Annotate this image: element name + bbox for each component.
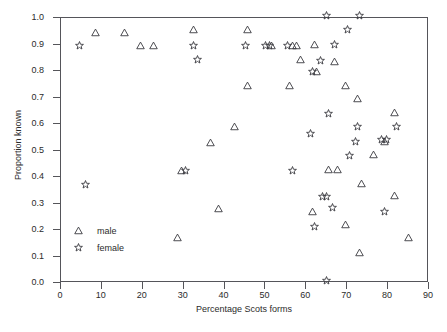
y-tick-mark bbox=[53, 44, 60, 45]
data-point-male bbox=[333, 165, 342, 174]
y-tick-mark bbox=[53, 97, 60, 98]
data-point-male bbox=[149, 41, 158, 50]
data-point-male bbox=[357, 179, 366, 188]
data-point-female bbox=[382, 135, 391, 144]
data-point-female bbox=[316, 56, 325, 65]
y-tick-mark bbox=[53, 17, 60, 18]
y-tick-mark bbox=[53, 256, 60, 257]
y-tick-label: 0.0 bbox=[0, 278, 44, 287]
data-point-female bbox=[193, 55, 202, 64]
x-tick-mark bbox=[60, 282, 61, 289]
x-tick-mark bbox=[264, 282, 265, 289]
x-tick-label: 20 bbox=[127, 291, 157, 300]
x-tick-label: 50 bbox=[249, 291, 279, 300]
data-point-male bbox=[404, 233, 413, 242]
data-point-male bbox=[230, 122, 239, 131]
data-point-female bbox=[324, 109, 333, 118]
data-point-male bbox=[136, 41, 145, 50]
data-point-female bbox=[330, 40, 339, 49]
legend-item-label: female bbox=[97, 243, 124, 253]
data-point-female bbox=[345, 151, 354, 160]
data-point-female bbox=[355, 11, 364, 20]
data-point-female bbox=[181, 166, 190, 175]
x-tick-mark bbox=[224, 282, 225, 289]
y-tick-label: 0.9 bbox=[0, 40, 44, 49]
x-tick-label: 10 bbox=[86, 291, 116, 300]
y-tick-mark bbox=[53, 150, 60, 151]
y-tick-mark bbox=[53, 176, 60, 177]
data-point-female bbox=[75, 41, 84, 50]
data-point-male bbox=[390, 108, 399, 117]
y-tick-mark bbox=[53, 203, 60, 204]
data-point-female bbox=[283, 41, 292, 50]
x-tick-mark bbox=[305, 282, 306, 289]
legend: malefemale bbox=[72, 222, 124, 256]
x-tick-mark bbox=[346, 282, 347, 289]
data-point-female bbox=[308, 67, 317, 76]
x-tick-label: 0 bbox=[45, 291, 75, 300]
x-tick-mark bbox=[142, 282, 143, 289]
data-point-female bbox=[343, 25, 352, 34]
y-tick-mark bbox=[53, 70, 60, 71]
x-tick-label: 60 bbox=[290, 291, 320, 300]
y-tick-label: 1.0 bbox=[0, 13, 44, 22]
data-point-female bbox=[189, 41, 198, 50]
data-point-male bbox=[310, 40, 319, 49]
data-point-male bbox=[330, 57, 339, 66]
legend-item-male: male bbox=[72, 222, 124, 239]
data-point-male bbox=[189, 25, 198, 34]
data-point-male bbox=[355, 248, 364, 257]
data-point-female bbox=[322, 11, 331, 20]
data-point-male bbox=[120, 28, 129, 37]
data-point-female bbox=[288, 166, 297, 175]
x-tick-label: 30 bbox=[168, 291, 198, 300]
data-point-female bbox=[310, 222, 319, 231]
data-point-male bbox=[292, 41, 301, 50]
x-tick-label: 40 bbox=[209, 291, 239, 300]
legend-item-label: male bbox=[97, 226, 117, 236]
x-tick-label: 70 bbox=[331, 291, 361, 300]
y-tick-label: 0.8 bbox=[0, 66, 44, 75]
data-point-male bbox=[91, 28, 100, 37]
data-point-female bbox=[306, 129, 315, 138]
data-point-male bbox=[341, 220, 350, 229]
y-tick-mark bbox=[53, 229, 60, 230]
y-tick-mark bbox=[53, 123, 60, 124]
x-tick-mark bbox=[428, 282, 429, 289]
data-point-male bbox=[296, 55, 305, 64]
y-axis-label: Proportion known bbox=[13, 90, 23, 200]
x-tick-label: 90 bbox=[413, 291, 443, 300]
data-point-male bbox=[285, 81, 294, 90]
x-axis-label: Percentage Scots forms bbox=[60, 304, 428, 314]
data-point-male bbox=[243, 81, 252, 90]
x-tick-mark bbox=[101, 282, 102, 289]
data-point-female bbox=[322, 192, 331, 201]
triangle-up-icon bbox=[72, 225, 86, 236]
data-point-female bbox=[351, 137, 360, 146]
data-point-female bbox=[81, 180, 90, 189]
data-point-female bbox=[322, 276, 331, 285]
data-point-female bbox=[265, 41, 274, 50]
data-point-male bbox=[308, 207, 317, 216]
data-point-female bbox=[241, 41, 250, 50]
data-point-male bbox=[341, 81, 350, 90]
data-point-male bbox=[369, 150, 378, 159]
x-tick-mark bbox=[387, 282, 388, 289]
data-point-male bbox=[353, 94, 362, 103]
y-tick-label: 0.1 bbox=[0, 252, 44, 261]
data-point-male bbox=[390, 191, 399, 200]
legend-item-female: female bbox=[72, 239, 124, 256]
data-point-male bbox=[173, 233, 182, 242]
data-point-male bbox=[214, 204, 223, 213]
star-icon bbox=[72, 242, 86, 253]
y-tick-label: 0.2 bbox=[0, 225, 44, 234]
data-point-female bbox=[392, 122, 401, 131]
x-tick-mark bbox=[183, 282, 184, 289]
data-point-female bbox=[353, 122, 362, 131]
y-tick-mark bbox=[53, 282, 60, 283]
data-point-female bbox=[380, 207, 389, 216]
data-point-female bbox=[328, 203, 337, 212]
x-tick-label: 80 bbox=[372, 291, 402, 300]
scatter-chart: 0.00.10.20.30.40.50.60.70.80.91.00102030… bbox=[0, 0, 447, 332]
data-point-male bbox=[206, 138, 215, 147]
